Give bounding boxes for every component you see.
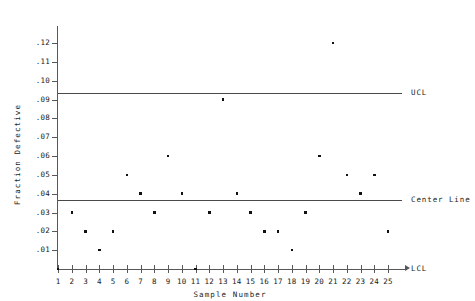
x-tick xyxy=(113,265,114,273)
y-tick-label: .03 xyxy=(36,209,50,217)
data-point xyxy=(304,211,307,214)
limit-label-ucl: UCL xyxy=(411,89,427,97)
x-tick xyxy=(237,265,238,273)
y-tick-label: .05 xyxy=(36,171,50,179)
y-tick xyxy=(52,137,58,138)
y-tick-label: .04 xyxy=(36,190,50,198)
x-tick xyxy=(347,265,348,273)
x-tick xyxy=(86,265,87,273)
y-tick xyxy=(52,156,58,157)
x-tick xyxy=(361,265,362,273)
y-tick-label: .12 xyxy=(36,39,50,47)
y-tick-label: .02 xyxy=(36,227,50,235)
x-tick xyxy=(141,265,142,273)
data-point xyxy=(153,211,156,214)
data-point xyxy=(112,230,115,233)
data-point xyxy=(181,192,184,195)
x-tick xyxy=(292,265,293,273)
y-tick xyxy=(52,81,58,82)
data-point xyxy=(222,98,225,101)
limit-line-ucl xyxy=(58,93,402,94)
x-tick xyxy=(154,265,155,273)
data-point xyxy=(291,249,294,252)
data-point xyxy=(139,192,142,195)
y-tick xyxy=(52,250,58,251)
x-tick xyxy=(209,265,210,273)
data-point xyxy=(373,174,376,177)
data-point xyxy=(126,174,129,177)
x-tick xyxy=(306,265,307,273)
data-point xyxy=(359,192,362,195)
data-point xyxy=(194,268,197,271)
data-point xyxy=(84,230,87,233)
data-point xyxy=(332,42,335,45)
control-chart: .01.02.03.04.05.06.07.08.09.10.11.12 123… xyxy=(0,0,475,301)
y-tick xyxy=(52,213,58,214)
data-point xyxy=(71,211,74,214)
x-tick xyxy=(99,265,100,273)
limit-label-center-line: Center Line xyxy=(411,196,471,204)
data-point xyxy=(167,155,170,158)
x-tick xyxy=(251,265,252,273)
x-axis-line xyxy=(57,269,407,270)
data-point xyxy=(346,174,349,177)
limit-line-center-line xyxy=(58,200,402,201)
y-axis-title: Fraction Defective xyxy=(13,95,22,215)
data-point xyxy=(387,230,390,233)
y-tick-label: .08 xyxy=(36,114,50,122)
x-tick xyxy=(278,265,279,273)
y-tick xyxy=(52,118,58,119)
data-point xyxy=(318,155,321,158)
y-tick-label: .11 xyxy=(36,58,50,66)
limit-label-lcl: LCL xyxy=(411,265,427,273)
data-point xyxy=(277,230,280,233)
x-tick xyxy=(72,265,73,273)
data-point xyxy=(263,230,266,233)
x-tick xyxy=(374,265,375,273)
x-tick-label: 25 xyxy=(378,277,398,286)
data-point xyxy=(98,249,101,252)
data-point xyxy=(236,192,239,195)
x-axis-arrow-icon xyxy=(405,265,410,271)
data-point xyxy=(208,211,211,214)
y-tick xyxy=(52,43,58,44)
x-tick xyxy=(168,265,169,273)
y-tick xyxy=(52,175,58,176)
y-tick xyxy=(52,194,58,195)
y-tick xyxy=(52,62,58,63)
y-tick-label: .09 xyxy=(36,96,50,104)
y-tick-label: .01 xyxy=(36,246,50,254)
x-axis-title: Sample Number xyxy=(150,290,310,299)
data-point xyxy=(249,211,252,214)
x-tick xyxy=(388,265,389,273)
y-tick-label: .06 xyxy=(36,152,50,160)
y-tick-label: .07 xyxy=(36,133,50,141)
x-tick xyxy=(333,265,334,273)
x-tick xyxy=(223,265,224,273)
x-tick xyxy=(319,265,320,273)
y-tick xyxy=(52,231,58,232)
data-point xyxy=(57,268,60,271)
x-tick xyxy=(264,265,265,273)
y-tick xyxy=(52,100,58,101)
x-tick xyxy=(182,265,183,273)
y-tick-label: .10 xyxy=(36,77,50,85)
x-tick xyxy=(127,265,128,273)
